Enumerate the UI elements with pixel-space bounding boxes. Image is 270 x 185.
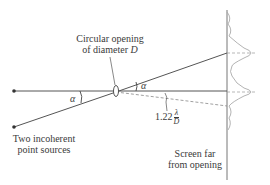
first-minimum-ray xyxy=(116,92,227,106)
intensity-profile xyxy=(227,12,251,130)
circular-opening xyxy=(114,86,119,97)
sources-label: Two incoherent point sources xyxy=(2,133,86,155)
alpha-arc-opening xyxy=(136,82,137,91)
alpha-arc-source xyxy=(80,91,82,103)
diameter-symbol-denominator: D xyxy=(174,118,180,126)
lambda-over-d-fraction: λD xyxy=(174,109,180,126)
screen-label: Screen far from opening xyxy=(163,148,227,170)
diameter-symbol: D xyxy=(131,44,138,55)
screen-label-line1: Screen far xyxy=(163,148,227,159)
point-source-1 xyxy=(12,89,16,93)
opening-leader xyxy=(110,57,115,85)
opening-label-line1: Circular opening xyxy=(60,33,160,44)
opening-label: Circular opening of diameter D xyxy=(60,33,160,55)
opening-label-line2: of diameter D xyxy=(60,44,160,55)
point-source-2 xyxy=(12,125,16,129)
alpha-label-source: α xyxy=(70,93,75,104)
ray-source-2-outgoing xyxy=(116,53,227,92)
opening-label-prefix: of diameter xyxy=(82,44,130,55)
sources-label-line2: point sources xyxy=(2,144,86,155)
diagram-canvas xyxy=(0,0,270,185)
sources-label-line1: Two incoherent xyxy=(2,133,86,144)
screen-label-line2: from opening xyxy=(163,159,227,170)
alpha-label-opening: α xyxy=(141,80,146,91)
resolution-coeff: 1.22 xyxy=(155,111,173,122)
ray-source-2-incoming xyxy=(14,92,116,127)
resolution-label: 1.22λD xyxy=(155,109,179,126)
